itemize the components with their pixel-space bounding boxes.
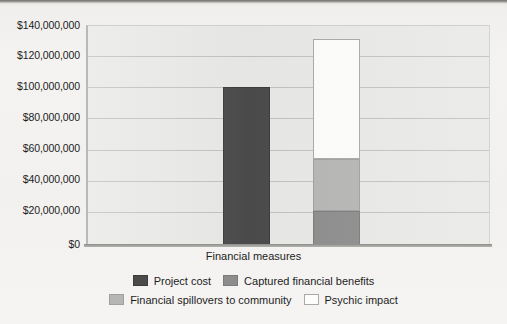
legend-label-spillovers: Financial spillovers to community — [130, 294, 291, 306]
legend-item-spillovers[interactable]: Financial spillovers to community — [109, 294, 291, 306]
legend-item-captured-benefits[interactable]: Captured financial benefits — [223, 275, 374, 287]
legend-swatch-spillovers-icon — [109, 294, 124, 305]
y-axis-label-60m: $60,000,000 — [2, 142, 80, 154]
stacked-bar-chart: $140,000,000 $120,000,000 $100,000,000 $… — [0, 0, 507, 324]
x-axis-title: Financial measures — [0, 250, 507, 262]
legend-swatch-psychic-impact-icon — [304, 294, 319, 305]
legend-item-psychic-impact[interactable]: Psychic impact — [304, 294, 398, 306]
legend-label-psychic-impact: Psychic impact — [325, 294, 398, 306]
legend-row-1: Project cost Captured financial benefits — [0, 271, 507, 290]
y-axis-label-80m: $80,000,000 — [2, 111, 80, 123]
gridline-100m — [88, 87, 489, 88]
y-axis-label-140m: $140,000,000 — [2, 19, 80, 31]
plot-area — [86, 25, 490, 244]
gridline-80m — [88, 118, 489, 119]
y-axis-label-100m: $100,000,000 — [2, 80, 80, 92]
gridline-40m — [88, 181, 489, 182]
gridline-20m — [88, 212, 489, 213]
legend-swatch-project-cost-icon — [133, 275, 148, 286]
legend-item-project-cost[interactable]: Project cost — [133, 275, 211, 287]
bar-segment-captured-benefits[interactable] — [313, 211, 360, 245]
y-axis-label-120m: $120,000,000 — [2, 49, 80, 61]
chart-legend: Project cost Captured financial benefits… — [0, 271, 507, 309]
gridline-120m — [88, 56, 489, 57]
bar-segment-financial-spillovers[interactable] — [313, 159, 360, 211]
bar-project-cost[interactable] — [223, 87, 270, 245]
legend-label-project-cost: Project cost — [154, 275, 211, 287]
x-axis-line — [84, 244, 492, 247]
y-axis-label-20m: $20,000,000 — [2, 204, 80, 216]
legend-label-captured-benefits: Captured financial benefits — [244, 275, 374, 287]
legend-row-2: Financial spillovers to community Psychi… — [0, 290, 507, 309]
legend-swatch-captured-benefits-icon — [223, 275, 238, 286]
y-axis-label-40m: $40,000,000 — [2, 173, 80, 185]
gridline-60m — [88, 150, 489, 151]
y-axis-label-0: $0 — [2, 238, 80, 250]
bar-segment-psychic-impact[interactable] — [313, 39, 360, 159]
